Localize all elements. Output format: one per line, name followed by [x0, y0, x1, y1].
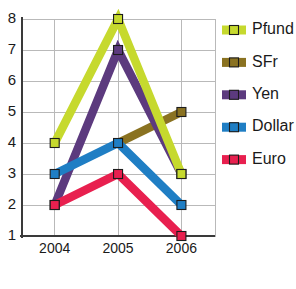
- data-point-marker: [50, 201, 59, 210]
- legend-item-label: Pfund: [252, 20, 294, 37]
- y-axis-tick-label: 3: [8, 164, 16, 181]
- y-axis-tick-label: 1: [8, 226, 16, 243]
- data-point-marker: [177, 201, 186, 210]
- data-point-marker: [177, 108, 186, 117]
- legend-marker-icon: [230, 90, 239, 99]
- x-axis-tick-label: 2006: [166, 240, 197, 256]
- y-axis-tick-label: 5: [8, 102, 16, 119]
- y-axis-tick-label: 6: [8, 71, 16, 88]
- legend-item-label: Dollar: [252, 117, 294, 134]
- data-point-marker: [114, 170, 123, 179]
- x-axis-tick-labels: 200420052006: [39, 240, 197, 256]
- x-axis-tick-label: 2004: [39, 240, 70, 256]
- data-point-marker: [114, 139, 123, 148]
- legend-item-label: Yen: [252, 85, 279, 102]
- data-point-marker: [114, 46, 123, 55]
- y-axis-tick-label: 4: [8, 133, 16, 150]
- x-axis-tick-label: 2005: [102, 240, 133, 256]
- y-axis-tick-label: 2: [8, 195, 16, 212]
- legend-marker-icon: [230, 58, 239, 67]
- y-axis-tick-label: 8: [8, 9, 16, 26]
- data-point-marker: [114, 15, 123, 24]
- chart-canvas: 12345678 200420052006 PfundSFrYenDollarE…: [0, 0, 296, 289]
- legend-marker-icon: [230, 26, 239, 35]
- data-point-marker: [50, 170, 59, 179]
- currency-line-chart: 12345678 200420052006 PfundSFrYenDollarE…: [0, 0, 296, 289]
- legend-marker-icon: [230, 155, 239, 164]
- data-point-marker: [50, 139, 59, 148]
- legend-marker-icon: [230, 123, 239, 132]
- data-point-marker: [177, 232, 186, 241]
- legend-item-label: Euro: [252, 150, 286, 167]
- legend-item-label: SFr: [252, 53, 278, 70]
- data-point-marker: [177, 170, 186, 179]
- y-axis-tick-label: 7: [8, 40, 16, 57]
